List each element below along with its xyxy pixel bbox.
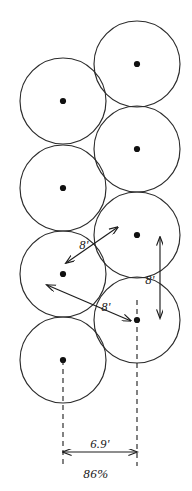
horizontal-dimension-label: 6.9' <box>90 437 110 451</box>
dot-left-3 <box>60 271 66 277</box>
diagonal-dimension-lower: 8' <box>47 285 131 321</box>
vertical-dimension-label: 8' <box>145 273 155 287</box>
dot-left-2 <box>60 185 66 191</box>
coverage-percent-label: 86% <box>83 466 108 481</box>
horizontal-dimension: 6.9' <box>63 437 137 452</box>
diagonal-lower-label: 8' <box>101 300 111 314</box>
sprinkler-coverage-diagram: 8' 8' 8' 6.9' 86% <box>0 0 192 491</box>
circle-group <box>20 21 180 403</box>
diagonal-lower-arrow <box>47 285 131 321</box>
dot-right-3 <box>134 232 140 238</box>
diagram-canvas: 8' 8' 8' 6.9' 86% <box>0 0 192 491</box>
diagonal-upper-label: 8' <box>79 238 89 252</box>
vertical-dimension: 8' <box>145 237 160 318</box>
dot-right-2 <box>134 146 140 152</box>
dot-right-1 <box>134 61 140 67</box>
dot-left-1 <box>60 98 66 104</box>
